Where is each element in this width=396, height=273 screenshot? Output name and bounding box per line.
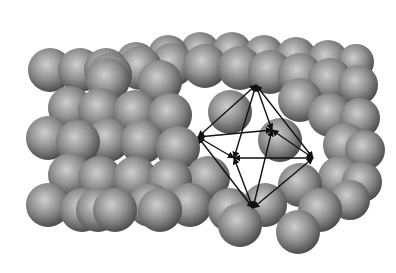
sphere-lattice [26,32,385,254]
octahedron-edge-arrow [198,137,234,158]
sphere [138,188,182,232]
sphere [276,210,320,254]
sphere [218,203,262,247]
sphere [93,188,137,232]
sphere [208,90,252,134]
sphere-packing-diagram [0,0,396,273]
sphere [258,118,302,162]
diagram-canvas [0,0,396,273]
